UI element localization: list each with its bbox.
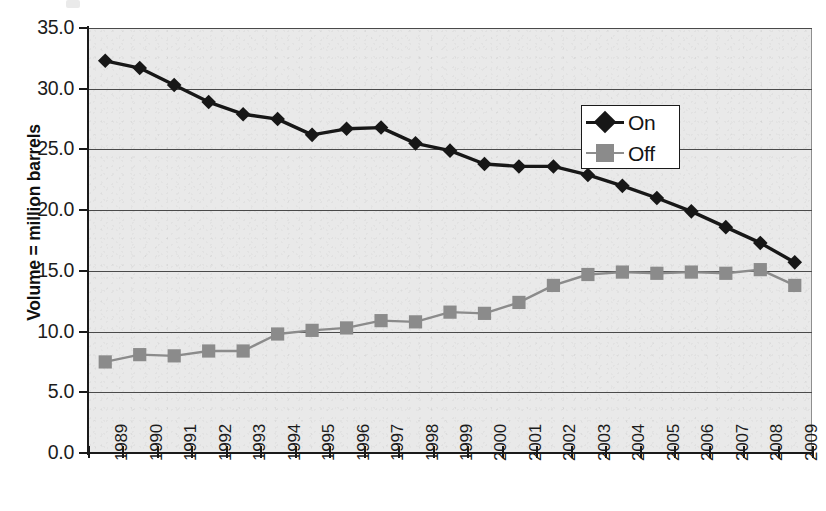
y-axis-line	[87, 26, 89, 455]
legend-entry-on: On	[582, 106, 681, 138]
gridline	[88, 210, 812, 211]
legend-label-off: Off	[628, 143, 655, 164]
y-axis-tick-label: 35.0	[0, 16, 74, 39]
x-axis-tick-label: 1995	[319, 424, 339, 461]
x-axis-tick-label: 2000	[491, 424, 511, 461]
x-axis-line	[87, 452, 813, 454]
x-axis-tick-label: 2008	[767, 424, 787, 461]
gridline	[88, 28, 812, 29]
legend-label-on: On	[628, 112, 655, 133]
x-axis-tick-label: 2006	[698, 424, 718, 461]
y-axis-tick-label: 5.0	[0, 380, 74, 403]
x-axis-tick-label: 2002	[560, 424, 580, 461]
x-axis-tick-label: 2005	[664, 424, 684, 461]
legend: On Off	[581, 105, 680, 169]
gridline	[88, 89, 812, 90]
legend-entry-off: Off	[582, 137, 681, 169]
legend-marker-on-icon	[582, 109, 628, 135]
y-axis-tick-label: 0.0	[0, 441, 74, 464]
y-axis-title: Volume = million barrels	[24, 93, 45, 353]
y-axis-tick-label: 15.0	[0, 259, 74, 282]
x-axis-tick-label: 2007	[733, 424, 753, 461]
x-axis-tick-label: 1992	[216, 424, 236, 461]
gridline	[88, 332, 812, 333]
y-axis-tick-label: 20.0	[0, 198, 74, 221]
x-axis-tick-label: 1994	[285, 424, 305, 461]
x-axis-tick-label: 1996	[354, 424, 374, 461]
gridline	[88, 149, 812, 150]
legend-marker-off-icon	[582, 140, 628, 166]
x-axis-tick-label: 2003	[595, 424, 615, 461]
x-axis-tick-label: 1997	[388, 424, 408, 461]
x-axis-tick-label: 1990	[147, 424, 167, 461]
x-axis-tick-label: 1991	[181, 424, 201, 461]
x-axis-tick-label: 2001	[526, 424, 546, 461]
scan-noise-overlay	[89, 29, 811, 452]
y-axis-tick-label: 10.0	[0, 320, 74, 343]
x-axis-tick-label: 1998	[423, 424, 443, 461]
x-axis-tick-label: 1993	[250, 424, 270, 461]
y-axis-tick-label: 30.0	[0, 77, 74, 100]
x-axis-tick-label: 1989	[112, 424, 132, 461]
gridline	[88, 271, 812, 272]
x-axis-tick-label: 2004	[629, 424, 649, 461]
plot-area	[88, 28, 812, 453]
x-axis-tick-label: 1999	[457, 424, 477, 461]
x-axis-tick-label: 2009	[802, 424, 822, 461]
chart-container: Volume = million barrels 35.030.025.020.…	[0, 0, 826, 511]
gridline	[88, 392, 812, 393]
y-axis-tick-label: 25.0	[0, 137, 74, 160]
scan-edge-artifact	[66, 0, 80, 8]
